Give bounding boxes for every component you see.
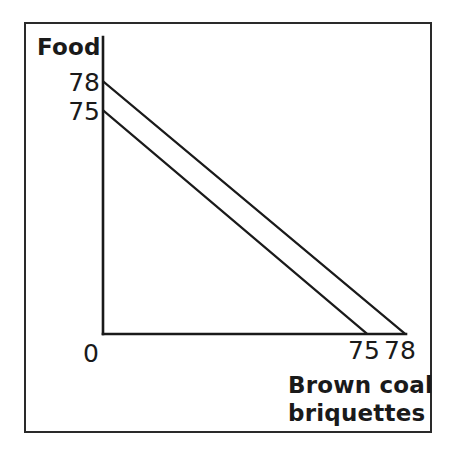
frontier-lines [104,82,404,333]
origin-tick-label: 0 [83,341,99,366]
y-axis-title: Food [37,36,101,59]
x-axis-title-line-1: Brown coal [288,371,433,399]
y-axis-tick-label-78: 78 [40,70,100,95]
figure-root: Food 78 75 0 75 78 Brown coal briquettes [0,0,460,462]
ppf-line-outer [104,82,404,333]
x-axis-title-line-2: briquettes [288,399,433,427]
x-axis-title: Brown coal briquettes [288,371,433,427]
ppf-line-inner [104,111,366,333]
y-axis-tick-label-75: 75 [40,99,100,124]
axis-lines [103,37,406,334]
x-axis-tick-label-75: 75 [348,338,380,363]
x-axis-tick-label-78: 78 [384,338,416,363]
